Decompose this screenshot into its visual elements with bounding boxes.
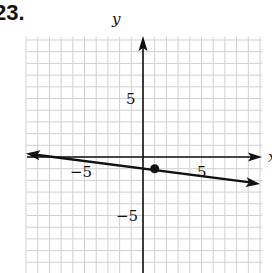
tick-label-y-neg5: −5 xyxy=(116,207,138,225)
axes xyxy=(27,36,262,273)
tick-label-x-5: 5 xyxy=(197,163,207,181)
x-axis-label: x xyxy=(268,148,272,166)
coordinate-plane: y x 5 −5 −5 5 xyxy=(0,0,272,273)
axis-labels: y x 5 −5 −5 5 xyxy=(70,10,272,225)
y-axis-label: y xyxy=(111,10,121,28)
tick-label-x-neg5: −5 xyxy=(70,163,92,181)
tick-label-y-5: 5 xyxy=(126,90,136,108)
plotted-point xyxy=(150,164,159,173)
grid xyxy=(26,37,262,273)
